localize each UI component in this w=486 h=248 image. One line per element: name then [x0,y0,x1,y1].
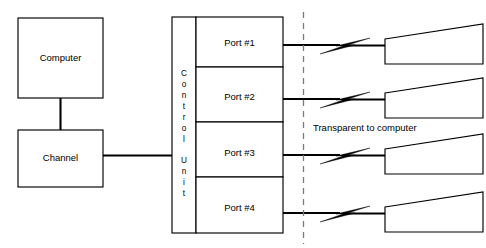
port-2-label: Port #2 [224,91,255,102]
control-unit-letter-r: r [183,113,186,122]
device-4-shape [385,192,483,232]
port-4-label: Port #4 [224,202,255,213]
channel-node: Channel [18,130,103,187]
transparency-annotation-label: Transparent to computer [313,122,417,133]
port-4: Port #4 [196,177,283,233]
computer-label: Computer [40,52,82,63]
port-1: Port #1 [196,17,283,67]
device-3 [385,134,483,174]
control-unit-letter-i: i [183,178,185,187]
port-3-label: Port #3 [224,147,255,158]
port-1-label: Port #1 [224,37,255,48]
control-unit-letter-u: U [181,156,187,165]
device-3-shape [385,134,483,174]
device-1 [385,24,483,64]
control-unit-letter-n2: n [182,167,187,176]
device-2 [385,78,483,118]
block-diagram: Computer Channel C o n t r o l U n i t [0,0,486,248]
device-4 [385,192,483,232]
channel-label: Channel [43,152,78,163]
control-unit-letter-c: C [181,69,187,78]
device-1-shape [385,24,483,64]
control-unit-node: C o n t r o l U n i t [172,17,196,233]
diagram-canvas: Computer Channel C o n t r o l U n i t [0,0,486,248]
control-unit-letter-l: l [183,135,185,144]
port-2: Port #2 [196,67,283,122]
control-unit-letter-n1: n [182,91,187,100]
control-unit-letter-o1: o [182,80,187,89]
control-unit-letter-o2: o [182,124,187,133]
computer-node: Computer [18,18,103,98]
port-3: Port #3 [196,122,283,177]
device-2-shape [385,78,483,118]
